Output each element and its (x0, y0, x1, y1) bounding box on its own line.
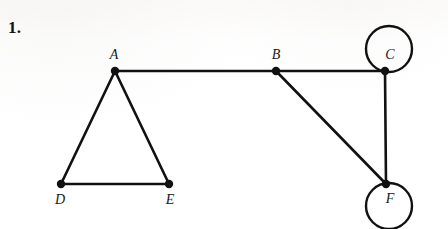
graph-drawing-canvas (0, 0, 448, 229)
vertex-label-f: F (386, 192, 395, 206)
vertices-group (57, 67, 390, 188)
graph-vertex-b (272, 67, 280, 75)
graph-vertex-d (57, 180, 65, 188)
figure-container: 1. ABCDEF (0, 0, 448, 229)
vertex-label-e: E (166, 193, 175, 207)
graph-edge-b-f (276, 71, 386, 184)
graph-vertex-e (165, 180, 173, 188)
graph-edge-c-f (385, 71, 386, 184)
vertex-label-b: B (272, 48, 281, 62)
self-loop-f (366, 183, 412, 229)
vertex-label-d: D (55, 193, 65, 207)
vertex-label-a: A (110, 48, 119, 62)
graph-vertex-c (381, 67, 389, 75)
graph-edge-a-e (115, 71, 169, 184)
graph-vertex-f (382, 180, 390, 188)
vertex-label-c: C (385, 48, 394, 62)
graph-vertex-a (111, 67, 119, 75)
graph-edge-a-d (61, 71, 115, 184)
edges-group (61, 71, 386, 184)
